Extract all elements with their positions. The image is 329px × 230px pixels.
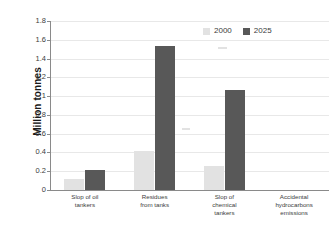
x-axis-label: Accidentalhydrocarbonsemissions bbox=[259, 193, 329, 218]
y-tick-label: 0.6 bbox=[6, 130, 46, 138]
legend-swatch-icon bbox=[203, 28, 210, 35]
legend-label: 2000 bbox=[214, 27, 232, 35]
x-axis-label-line: hydrocarbons bbox=[259, 201, 329, 209]
y-tick-labels: 00.20.40.60.811.21.41.61.8 bbox=[50, 21, 329, 190]
x-axis-label-line: chemical bbox=[190, 201, 260, 209]
y-tick-label: 1.6 bbox=[6, 36, 46, 44]
legend-item-2025[interactable]: 2025 bbox=[243, 27, 272, 35]
legend-item-2000[interactable]: 2000 bbox=[203, 27, 232, 35]
y-tick-label: 1.2 bbox=[6, 73, 46, 81]
y-tick-label: 1.4 bbox=[6, 55, 46, 63]
bar-chart: Million tonnes 00.20.40.60.811.21.41.61.… bbox=[0, 0, 329, 230]
legend-label: 2025 bbox=[254, 27, 272, 35]
x-axis-labels: Slop of oiltankersResiduesfrom tanksSlop… bbox=[50, 193, 329, 230]
x-axis-label: Slop ofchemicaltankers bbox=[190, 193, 260, 218]
y-tick-mark bbox=[47, 21, 50, 22]
y-tick-mark bbox=[47, 152, 50, 153]
y-tick-mark bbox=[47, 40, 50, 41]
y-tick-mark bbox=[47, 96, 50, 97]
y-tick-mark bbox=[47, 77, 50, 78]
y-tick-mark bbox=[47, 115, 50, 116]
x-axis-label-line: Slop of oil bbox=[50, 193, 120, 201]
x-axis-label-line: emissions bbox=[259, 209, 329, 217]
y-tick-mark bbox=[47, 190, 50, 191]
x-axis-label-line: Accidental bbox=[259, 193, 329, 201]
y-tick-label: 1 bbox=[6, 92, 46, 100]
x-axis-label: Slop of oiltankers bbox=[50, 193, 120, 209]
x-axis-label-line: Slop of bbox=[190, 193, 260, 201]
y-tick-mark bbox=[47, 171, 50, 172]
x-axis-line bbox=[50, 190, 329, 191]
x-axis-label: Residuesfrom tanks bbox=[120, 193, 190, 209]
y-tick-mark bbox=[47, 59, 50, 60]
legend-swatch-icon bbox=[243, 28, 250, 35]
y-tick-label: 0.8 bbox=[6, 111, 46, 119]
y-tick-label: 1.8 bbox=[6, 17, 46, 25]
x-axis-label-line: Residues bbox=[120, 193, 190, 201]
x-axis-label-line: from tanks bbox=[120, 201, 190, 209]
legend: 20002025 bbox=[203, 27, 272, 35]
y-tick-label: 0 bbox=[6, 186, 46, 194]
x-axis-label-line: tankers bbox=[50, 201, 120, 209]
y-tick-label: 0.2 bbox=[6, 167, 46, 175]
x-axis-label-line: tankers bbox=[190, 209, 260, 217]
y-tick-mark bbox=[47, 134, 50, 135]
y-tick-label: 0.4 bbox=[6, 148, 46, 156]
